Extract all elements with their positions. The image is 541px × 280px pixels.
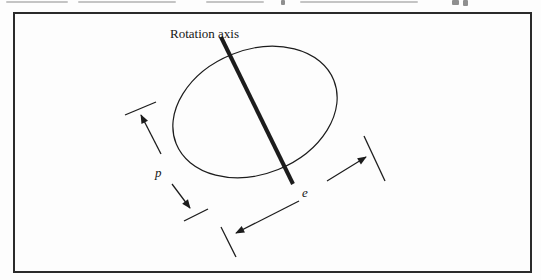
e-dimension-tick-left	[221, 227, 236, 257]
e-dimension: e	[221, 136, 385, 257]
e-dimension-arrow-left	[236, 201, 299, 233]
p-label: p	[154, 165, 162, 180]
p-dimension-arrow-up	[141, 115, 161, 154]
rotation-axis-label: Rotation axis	[170, 26, 239, 41]
p-dimension-tick-bottom	[184, 209, 208, 221]
p-dimension-tick-top	[125, 102, 156, 115]
e-label: e	[302, 185, 308, 200]
e-dimension-tick-right	[364, 136, 385, 181]
rotation-axis-line	[221, 37, 293, 184]
ellipse-rotation-diagram: Rotation axis p e	[0, 0, 541, 280]
p-dimension-arrow-down	[172, 184, 190, 208]
scanned-page: Rotation axis p e	[0, 0, 541, 280]
ellipse-outline	[153, 23, 357, 202]
e-dimension-arrow-right	[327, 157, 366, 181]
p-dimension: p	[125, 102, 208, 221]
